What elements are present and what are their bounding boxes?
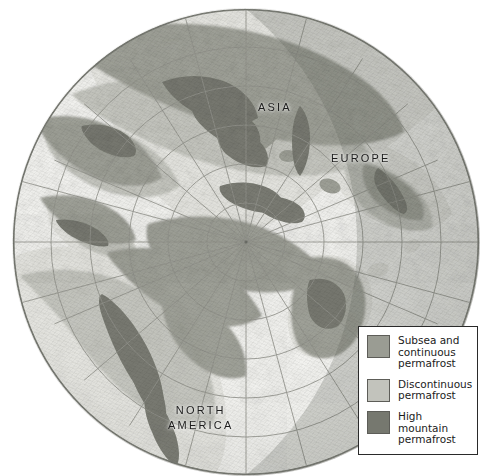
legend-item-high-mountain: High mountain permafrost (367, 411, 470, 446)
label-north-america-line1: NORTH (168, 403, 234, 418)
legend-label-high-mountain: High mountain permafrost (398, 411, 470, 446)
legend-swatch-continuous (367, 335, 390, 358)
legend-label-continuous: Subsea and continuous permafrost (398, 335, 470, 370)
legend-label-discontinuous: Discontinuous permafrost (398, 379, 472, 402)
legend-item-continuous: Subsea and continuous permafrost (367, 335, 470, 370)
legend-swatch-high-mountain (367, 411, 390, 434)
north-pole-marker (244, 240, 247, 243)
map-legend: Subsea and continuous permafrost Discont… (358, 326, 478, 455)
permafrost-map-figure: ASIA EUROPE NORTH AMERICA Subsea and con… (0, 0, 495, 476)
label-north-america: NORTH AMERICA (168, 403, 234, 433)
label-europe: EUROPE (331, 152, 391, 164)
label-north-america-line2: AMERICA (168, 418, 234, 433)
label-asia: ASIA (258, 101, 292, 113)
legend-swatch-discontinuous (367, 379, 390, 402)
legend-item-discontinuous: Discontinuous permafrost (367, 379, 470, 402)
